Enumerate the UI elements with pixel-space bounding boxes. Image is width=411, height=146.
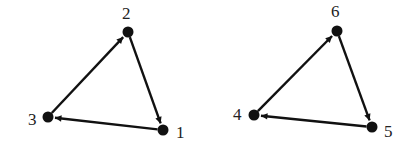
edges-layer — [52, 36, 370, 129]
node-label-1: 1 — [176, 123, 185, 142]
node-4 — [249, 110, 260, 121]
node-label-4: 4 — [233, 105, 242, 124]
edge-1-to-3 — [55, 118, 158, 130]
edge-5-to-4 — [261, 116, 367, 127]
directed-graph-diagram: 123456 — [0, 0, 411, 146]
node-3 — [43, 112, 54, 123]
node-5 — [367, 122, 378, 133]
node-label-2: 2 — [122, 4, 131, 23]
edge-3-to-2 — [52, 37, 123, 113]
node-label-5: 5 — [384, 122, 393, 141]
node-label-3: 3 — [28, 110, 37, 129]
edge-2-to-1 — [130, 37, 161, 123]
node-2 — [123, 27, 134, 38]
node-6 — [332, 26, 343, 37]
edge-6-to-5 — [339, 36, 370, 120]
edge-4-to-6 — [258, 36, 332, 111]
node-label-6: 6 — [331, 2, 340, 21]
node-1 — [158, 125, 169, 136]
